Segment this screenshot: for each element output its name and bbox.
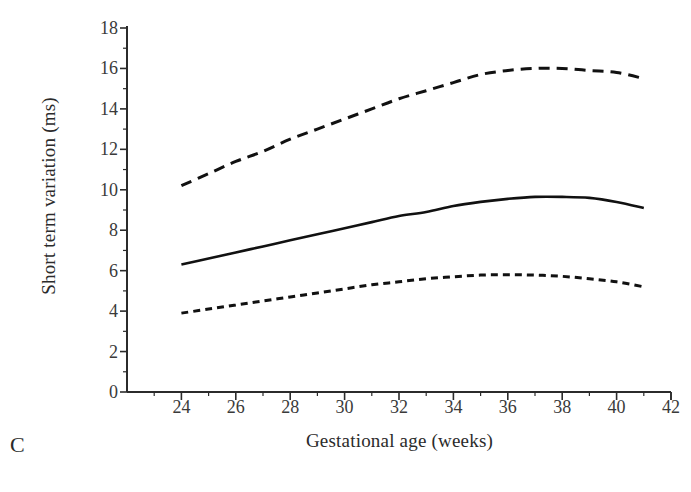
x-tick-32: 32 [379, 398, 419, 416]
x-axis-tick-labels: 24262830323436384042 [0, 0, 691, 492]
x-tick-24: 24 [161, 398, 201, 416]
x-tick-34: 34 [433, 398, 473, 416]
x-tick-38: 38 [542, 398, 582, 416]
x-tick-42: 42 [651, 398, 691, 416]
x-tick-40: 40 [597, 398, 637, 416]
x-tick-28: 28 [270, 398, 310, 416]
x-tick-30: 30 [325, 398, 365, 416]
panel-label: C [10, 432, 25, 458]
x-axis-title: Gestational age (weeks) [127, 430, 672, 452]
x-tick-26: 26 [216, 398, 256, 416]
x-tick-36: 36 [488, 398, 528, 416]
figure-panel-c: Short term variation (ms) 02468101214161… [0, 0, 691, 492]
